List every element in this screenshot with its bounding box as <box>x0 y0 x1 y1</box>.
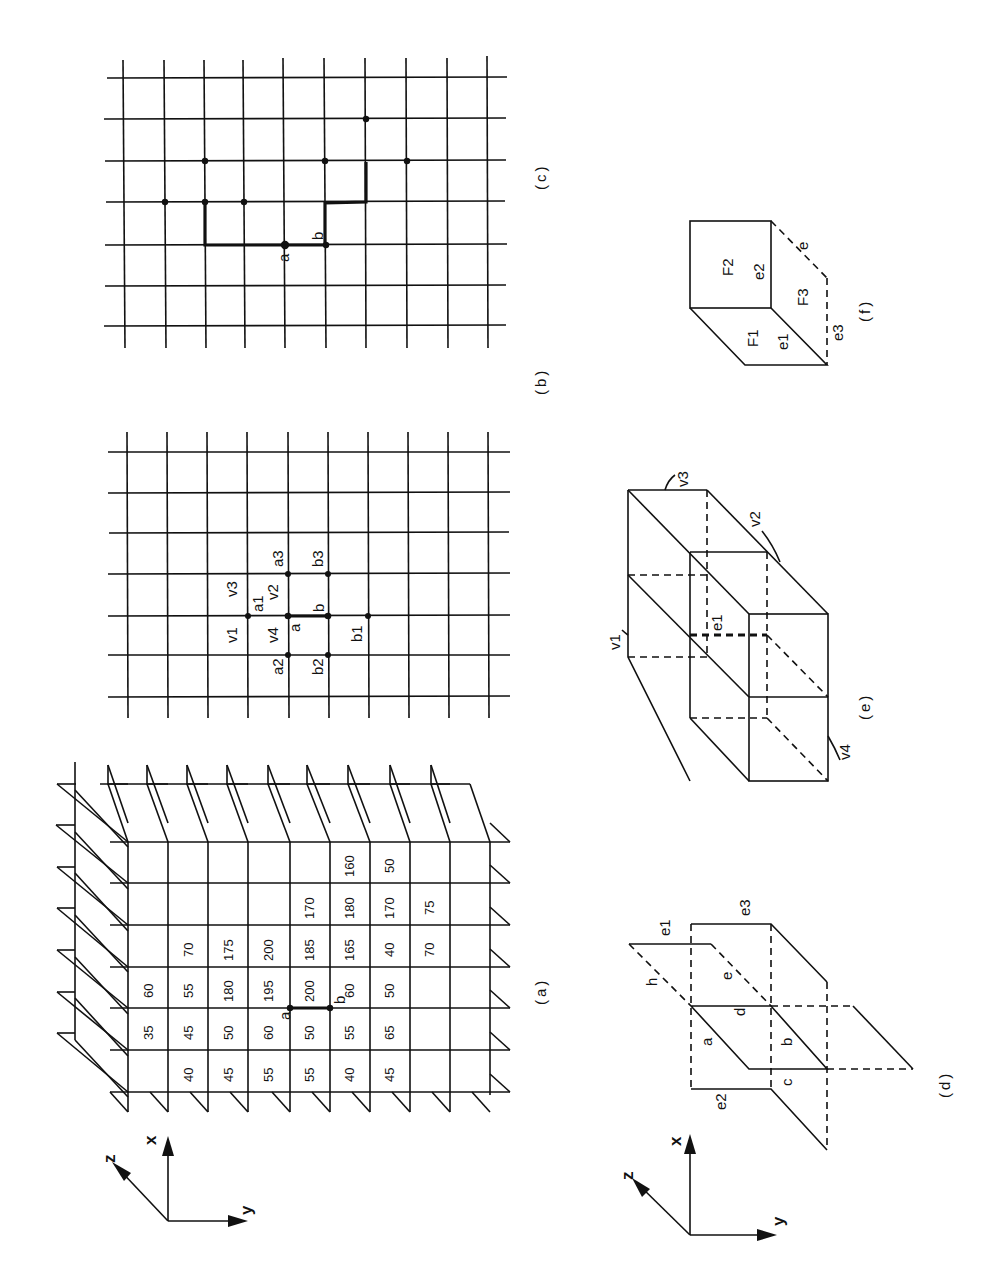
axes-icon-d: x y z <box>618 1134 788 1241</box>
svg-text:e1: e1 <box>708 614 725 631</box>
panel-b-label-b3: b3 <box>309 550 326 567</box>
svg-text:55: 55 <box>342 1026 357 1040</box>
panel-d-caption: (d) <box>936 1071 953 1098</box>
svg-text:200: 200 <box>261 939 276 961</box>
svg-text:55: 55 <box>261 1068 276 1082</box>
svg-text:e: e <box>718 972 735 980</box>
svg-text:z: z <box>618 1172 637 1181</box>
svg-text:170: 170 <box>302 897 317 919</box>
svg-text:z: z <box>100 1155 119 1164</box>
panel-e: v3 v2 v1 e1 v4 <box>606 471 853 781</box>
svg-text:v2: v2 <box>746 511 763 527</box>
svg-text:55: 55 <box>302 1068 317 1082</box>
svg-text:50: 50 <box>221 1026 236 1040</box>
panel-b-label-b1: b1 <box>348 625 365 642</box>
svg-text:40: 40 <box>181 1068 196 1082</box>
panel-c-grid: a b <box>104 56 507 348</box>
panel-a-stack: a b 60 35 70 55 45 40 175 180 50 45 200 … <box>56 762 510 1112</box>
panel-b-label-v3: v3 <box>223 581 240 597</box>
panel-f-caption: (f) <box>856 299 873 322</box>
svg-text:b: b <box>778 1038 795 1046</box>
panel-b-label-a2: a2 <box>269 658 286 675</box>
svg-text:50: 50 <box>382 984 397 998</box>
panel-e-caption: (e) <box>856 693 873 720</box>
svg-text:F2: F2 <box>719 258 736 276</box>
svg-text:40: 40 <box>342 1068 357 1082</box>
svg-text:c: c <box>778 1078 795 1086</box>
svg-text:45: 45 <box>221 1068 236 1082</box>
svg-text:35: 35 <box>141 1026 156 1040</box>
figure-canvas: a b (c) <box>0 0 982 1276</box>
panel-f: F2 e2 e F3 F1 e1 e3 <box>690 221 846 365</box>
panel-b-label-v4: v4 <box>264 627 281 643</box>
panel-b-label-b: b <box>310 604 327 612</box>
svg-text:75: 75 <box>422 901 437 915</box>
panel-b-label-v2: v2 <box>264 584 281 600</box>
svg-text:165: 165 <box>342 939 357 961</box>
panel-c-label-a: a <box>275 253 292 262</box>
svg-text:180: 180 <box>342 897 357 919</box>
panel-c-label-b: b <box>309 232 326 240</box>
svg-text:65: 65 <box>382 1026 397 1040</box>
svg-text:70: 70 <box>422 943 437 957</box>
svg-text:e1: e1 <box>774 333 791 350</box>
panel-c-caption: (c) <box>532 164 549 191</box>
svg-text:180: 180 <box>221 980 236 1002</box>
svg-text:x: x <box>666 1136 685 1146</box>
panel-b-label-b2: b2 <box>309 658 326 675</box>
svg-text:60: 60 <box>342 984 357 998</box>
axes-icon-a: x y z <box>100 1135 256 1227</box>
svg-text:e: e <box>794 242 811 250</box>
panel-b-label-a: a <box>286 623 303 632</box>
svg-text:y: y <box>769 1216 788 1226</box>
svg-text:v1: v1 <box>606 634 623 650</box>
svg-text:195: 195 <box>261 980 276 1002</box>
svg-text:e2: e2 <box>750 263 767 280</box>
svg-text:40: 40 <box>382 943 397 957</box>
svg-text:e1: e1 <box>656 919 673 936</box>
svg-text:160: 160 <box>342 855 357 877</box>
svg-text:55: 55 <box>181 984 196 998</box>
svg-text:185: 185 <box>302 939 317 961</box>
svg-text:170: 170 <box>382 897 397 919</box>
svg-text:175: 175 <box>221 939 236 961</box>
svg-text:v4: v4 <box>836 744 853 760</box>
panel-b-label-v1: v1 <box>223 627 240 643</box>
svg-text:h: h <box>643 978 660 986</box>
panel-b-grid: v3 a1 v2 a3 b3 v1 v4 a b b1 a2 b2 <box>108 432 510 718</box>
svg-text:e2: e2 <box>712 1093 729 1110</box>
svg-text:F3: F3 <box>794 288 811 306</box>
panel-b-caption: (b) <box>532 368 549 395</box>
svg-text:v3: v3 <box>674 471 691 487</box>
svg-text:45: 45 <box>382 1068 397 1082</box>
svg-text:x: x <box>141 1135 160 1145</box>
panel-a-label-a: a <box>276 1011 293 1020</box>
panel-d: e1 e3 h e d a b c e2 <box>629 899 913 1150</box>
svg-text:45: 45 <box>181 1026 196 1040</box>
svg-text:d: d <box>731 1008 748 1016</box>
panel-b-label-a3: a3 <box>269 550 286 567</box>
svg-text:60: 60 <box>261 1026 276 1040</box>
svg-text:50: 50 <box>302 1026 317 1040</box>
svg-text:e3: e3 <box>736 899 753 916</box>
svg-text:e3: e3 <box>829 324 846 341</box>
panel-a-cell-values: 60 35 70 55 45 40 175 180 50 45 200 195 … <box>141 855 437 1082</box>
svg-text:60: 60 <box>141 984 156 998</box>
svg-text:F1: F1 <box>744 329 761 347</box>
svg-text:y: y <box>237 1205 256 1215</box>
svg-text:70: 70 <box>181 943 196 957</box>
svg-text:200: 200 <box>302 980 317 1002</box>
svg-text:a: a <box>698 1037 715 1046</box>
panel-a-caption: (a) <box>532 978 549 1005</box>
svg-text:50: 50 <box>382 859 397 873</box>
